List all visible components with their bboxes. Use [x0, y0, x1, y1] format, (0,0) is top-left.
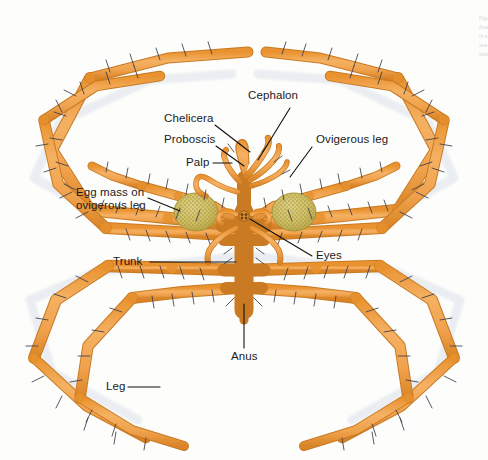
label-egg-mass-text: Egg mass on ovigerous leg: [76, 186, 146, 211]
label-proboscis: Proboscis: [164, 133, 215, 146]
label-chelicera-text: Chelicera: [164, 112, 213, 124]
label-eyes: Eyes: [316, 249, 342, 262]
label-proboscis-text: Proboscis: [164, 133, 215, 145]
label-chelicera: Chelicera: [164, 112, 213, 125]
label-anus: Anus: [231, 350, 258, 363]
label-palp: Palp: [186, 156, 209, 169]
label-ovigerous-leg: Ovigerous leg: [316, 133, 388, 146]
label-palp-text: Palp: [186, 156, 209, 168]
egg-mass-left: [174, 193, 218, 231]
edge-caption-line: sea: [479, 41, 488, 50]
label-ovigerous-leg-text: Ovigerous leg: [316, 133, 388, 145]
label-leg: Leg: [106, 380, 126, 393]
label-trunk: Trunk: [113, 255, 142, 268]
edge-caption-line: Figure: [479, 14, 488, 23]
edge-caption-line: of a: [479, 32, 488, 41]
label-egg-mass: Egg mass on ovigerous leg: [76, 186, 172, 211]
page-edge-caption-fragment: FigureAnatomyof aseaspider: [479, 14, 488, 59]
sea-spider-illustration: [0, 0, 488, 460]
label-leg-text: Leg: [106, 380, 126, 392]
label-cephalon: Cephalon: [248, 89, 298, 102]
eye-tubercle: [239, 211, 249, 221]
label-trunk-text: Trunk: [113, 255, 142, 267]
label-anus-text: Anus: [231, 350, 258, 362]
edge-caption-line: Anatomy: [479, 23, 488, 32]
label-cephalon-text: Cephalon: [248, 89, 298, 101]
sea-spider-diagram: [0, 0, 488, 460]
label-eyes-text: Eyes: [316, 249, 342, 261]
edge-caption-line: spider: [479, 50, 488, 59]
